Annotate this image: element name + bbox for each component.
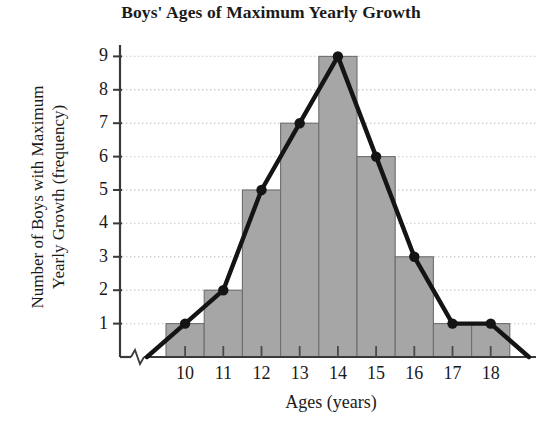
x-tick-label: 10: [165, 364, 205, 382]
x-tick-label: 12: [242, 364, 282, 382]
x-tick-label: 14: [318, 364, 358, 382]
chart-figure: Boys' Ages of Maximum Yearly Growth Numb…: [0, 0, 542, 436]
bar: [242, 190, 280, 357]
histogram-bars: [166, 56, 510, 357]
x-tick-label: 18: [471, 364, 511, 382]
x-tick-label: 13: [280, 364, 320, 382]
x-tick-label: 15: [356, 364, 396, 382]
data-point-marker: [333, 51, 343, 61]
bar: [395, 257, 433, 357]
y-tick-label: 1: [86, 314, 108, 332]
y-tick-label: 2: [86, 280, 108, 298]
x-tick-label: 11: [203, 364, 243, 382]
y-tick-label: 3: [86, 247, 108, 265]
data-point-marker: [371, 151, 381, 161]
data-point-marker: [295, 118, 305, 128]
data-point-marker: [447, 318, 457, 328]
y-tick-label: 7: [86, 113, 108, 131]
y-tick-label: 9: [86, 46, 108, 64]
data-point-marker: [409, 252, 419, 262]
data-point-marker: [256, 185, 266, 195]
bar: [281, 123, 319, 357]
x-tick-label: 16: [394, 364, 434, 382]
x-tick-label: 17: [433, 364, 473, 382]
data-point-marker: [180, 318, 190, 328]
data-point-marker: [486, 318, 496, 328]
bar: [319, 56, 357, 357]
y-tick-label: 4: [86, 213, 108, 231]
y-tick-label: 6: [86, 147, 108, 165]
y-tick-label: 5: [86, 180, 108, 198]
y-tick-label: 8: [86, 80, 108, 98]
data-point-marker: [218, 285, 228, 295]
axis-break-zigzag: [131, 350, 144, 364]
